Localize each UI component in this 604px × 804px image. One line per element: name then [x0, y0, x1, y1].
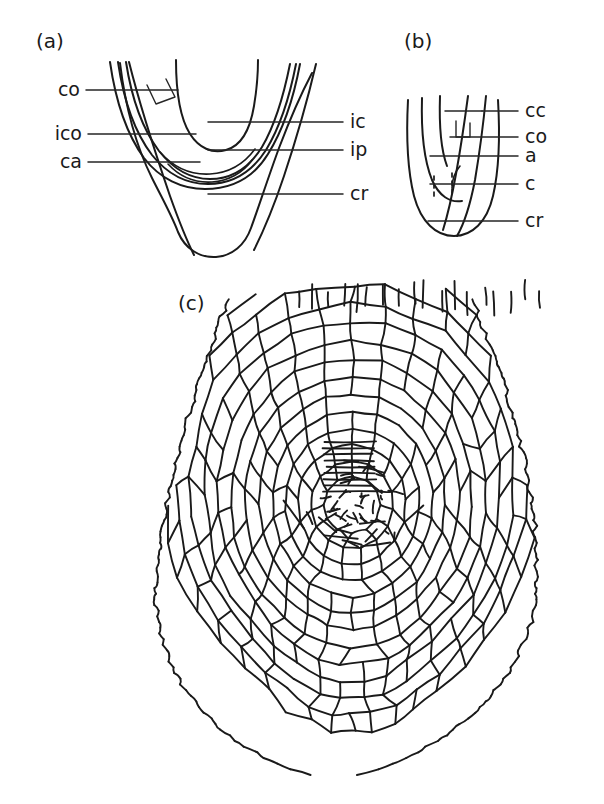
cell-wall — [430, 603, 454, 626]
panel-a-label: (a) — [36, 29, 64, 53]
cell-wall — [237, 355, 240, 374]
cell-wall — [353, 377, 381, 380]
cell-wall — [225, 537, 234, 547]
cell-wall — [457, 615, 473, 639]
cell-wall — [271, 392, 278, 407]
panel-a: (a) co ico ca ic — [36, 29, 368, 257]
cell-wall — [163, 645, 168, 651]
cell-wall — [353, 360, 355, 377]
panel-a-label-ico: ico — [55, 122, 82, 144]
cell-wall — [426, 410, 446, 433]
cell-wall — [406, 487, 419, 499]
cell-wall — [320, 677, 340, 682]
cell-wall — [395, 598, 396, 615]
panel-a-layer-mid-left — [118, 62, 296, 184]
cell-wall — [381, 323, 386, 345]
cell-wall — [273, 486, 287, 493]
cell-wall — [252, 550, 268, 578]
cell-wall — [177, 554, 185, 577]
cell-wall — [430, 626, 432, 642]
cell-wall — [235, 741, 244, 747]
cell-wall — [257, 752, 263, 758]
cell-wall — [385, 531, 388, 534]
cell-wall — [401, 536, 413, 556]
cell-wall — [245, 461, 250, 489]
cell-wall — [325, 460, 374, 461]
cell-wall — [331, 731, 356, 733]
cell-wall — [324, 326, 325, 346]
cell-wall — [231, 507, 234, 537]
cell-wall — [232, 391, 249, 420]
cell-wall — [241, 639, 253, 647]
cell-wall — [298, 499, 300, 522]
cell-wall — [267, 428, 281, 451]
cell-wall — [386, 307, 413, 319]
cell-wall — [274, 511, 286, 518]
cell-wall — [331, 715, 332, 732]
cell-wall — [479, 400, 495, 431]
cell-wall — [252, 533, 263, 551]
cell-wall — [474, 563, 486, 595]
cell-wall — [165, 498, 170, 504]
cell-wall — [437, 370, 453, 393]
cell-wall — [426, 451, 436, 465]
cell-wall — [413, 319, 416, 335]
cell-wall — [218, 611, 231, 621]
cell-wall — [316, 289, 319, 310]
cell-wall — [289, 318, 292, 334]
cell-wall — [231, 473, 233, 507]
cell-wall — [381, 345, 412, 354]
cell-wall — [296, 345, 325, 356]
cell-wall — [324, 540, 329, 556]
cell-wall — [362, 571, 382, 580]
cell-wall — [512, 478, 513, 516]
cell-wall — [312, 719, 331, 732]
cell-wall — [364, 697, 370, 712]
cell-wall — [383, 476, 392, 492]
cell-wall — [311, 491, 312, 510]
cell-wall — [251, 602, 256, 619]
cell-wall — [406, 752, 418, 758]
cell-wall — [196, 414, 202, 447]
cell-wall — [326, 395, 351, 397]
cell-wall — [416, 582, 417, 599]
cell-wall — [232, 333, 236, 355]
cell-wall — [350, 323, 351, 339]
cell-wall — [247, 520, 253, 550]
panel-b-label-c: c — [525, 172, 535, 194]
cell-wall — [209, 356, 213, 380]
cell-wall — [472, 418, 480, 449]
cell-wall — [417, 578, 436, 599]
cell-wall — [265, 664, 274, 673]
cell-wall — [377, 397, 379, 414]
cell-wall — [263, 533, 273, 559]
cell-wall — [343, 579, 362, 580]
cell-wall — [206, 433, 212, 460]
cell-wall — [400, 618, 420, 635]
cell-wall — [505, 577, 521, 613]
cell-wall — [188, 447, 196, 477]
cell-wall — [379, 380, 381, 398]
cell-wall — [382, 557, 401, 572]
cell-wall — [512, 447, 513, 478]
cell-wall — [381, 361, 383, 380]
cell-wall — [395, 582, 417, 598]
cell-wall — [351, 610, 374, 613]
cell-wall — [375, 433, 394, 443]
cell-wall — [418, 747, 425, 753]
cell-wall — [446, 289, 448, 312]
cell-wall — [495, 431, 500, 462]
cell-wall — [268, 559, 274, 578]
cell-wall — [381, 505, 393, 509]
cell-wall — [385, 284, 416, 299]
cell-wall — [407, 660, 431, 681]
cell-wall — [305, 634, 327, 643]
cell-wall — [211, 580, 231, 610]
cell-wall — [364, 695, 383, 697]
cell-wall — [417, 559, 430, 582]
cell-wall — [312, 505, 324, 510]
cell-wall — [352, 530, 366, 534]
cell-wall — [286, 712, 312, 719]
cell-wall — [325, 441, 377, 442]
cell-wall — [277, 764, 290, 770]
